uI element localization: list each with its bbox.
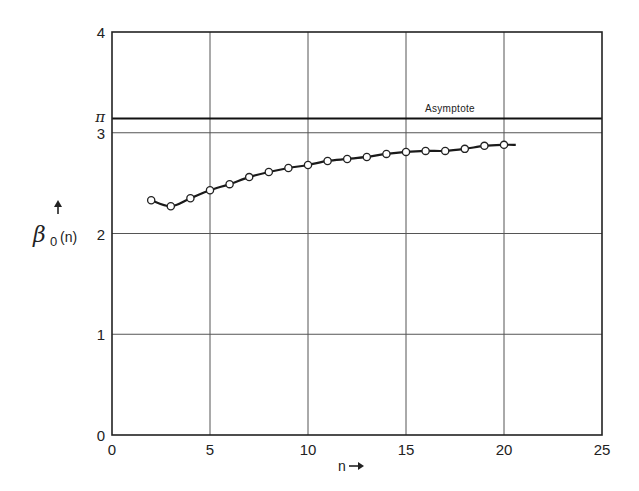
data-point	[285, 164, 292, 171]
data-point	[148, 197, 155, 204]
data-point	[206, 187, 213, 194]
y-tick-label: 2	[97, 226, 105, 243]
data-point	[304, 161, 311, 168]
y-axis-beta: β	[32, 222, 46, 247]
data-point	[226, 181, 233, 188]
x-tick-label: 0	[108, 441, 116, 458]
x-tick-label: 5	[206, 441, 214, 458]
data-point	[363, 153, 370, 160]
grid-lines	[112, 32, 602, 435]
data-point	[422, 147, 429, 154]
y-tick-label: 4	[97, 24, 105, 41]
data-point	[187, 195, 194, 202]
data-point	[481, 142, 488, 149]
arrow-up-icon	[54, 200, 62, 214]
data-point	[246, 173, 253, 180]
data-point	[500, 141, 507, 148]
data-point	[442, 147, 449, 154]
x-tick-label: 10	[300, 441, 317, 458]
data-point	[167, 203, 174, 210]
y-tick-label: 3	[97, 125, 105, 142]
x-tick-labels: 0510152025	[108, 441, 611, 458]
data-point	[344, 155, 351, 162]
x-axis-label-text: n	[338, 458, 346, 474]
data-series	[148, 141, 516, 210]
asymptote-label: Asymptote	[425, 103, 475, 114]
chart: 0510152025 01234π Asymptote n β 0 (n)	[0, 0, 639, 491]
y-tick-label: 0	[97, 427, 105, 444]
y-axis-arg: (n)	[60, 229, 77, 245]
series-line	[151, 145, 516, 207]
y-tick-label: 1	[97, 326, 105, 343]
data-point	[461, 145, 468, 152]
data-point	[402, 148, 409, 155]
y-axis-label: β 0 (n)	[32, 200, 77, 249]
y-tick-label-pi: π	[94, 108, 106, 126]
x-axis-label: n	[338, 458, 364, 474]
arrow-right-icon	[349, 462, 364, 470]
y-axis-subscript: 0	[50, 234, 57, 249]
data-point	[265, 168, 272, 175]
x-tick-label: 20	[496, 441, 513, 458]
x-tick-label: 25	[594, 441, 611, 458]
y-tick-labels: 01234π	[94, 24, 106, 444]
data-point	[383, 150, 390, 157]
data-point	[324, 157, 331, 164]
x-tick-label: 15	[398, 441, 415, 458]
